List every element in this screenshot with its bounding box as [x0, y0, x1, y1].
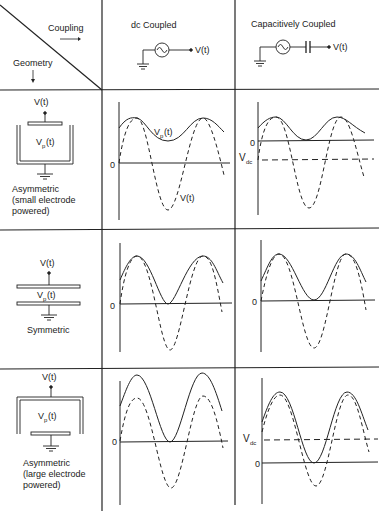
arrow-right-icon	[78, 37, 81, 41]
geometry-input-label: V(t)	[40, 258, 55, 268]
plot-row1-dc: 0 V p (t) V(t)	[110, 102, 230, 220]
capacitive-coupled-label: Capacitively Coupled	[251, 19, 336, 29]
vp-curve	[120, 256, 223, 304]
zero-label: 0	[110, 160, 115, 170]
plot-row2-dc: 0	[110, 243, 232, 352]
geometry-input-label: V(t)	[34, 97, 49, 107]
geometry-caption-line: Asymmetric	[12, 184, 59, 194]
capacitive-coupled-header: Capacitively Coupled V(t)	[251, 19, 348, 66]
geometry-input-label: V(t)	[42, 372, 57, 382]
dc-output-label: V(t)	[195, 45, 210, 55]
plot-row3-capacitive: 0 V dc	[243, 378, 378, 504]
arrow-down-icon	[31, 79, 35, 83]
geometry-asymmetric-large: V(t) V p (t) Asymmetric (large electrode…	[17, 372, 86, 490]
corner-header: Coupling Geometry	[13, 23, 84, 83]
cap-output-label: V(t)	[333, 42, 348, 52]
vp-suffix: (t)	[164, 127, 173, 137]
zero-label: 0	[255, 459, 260, 469]
zero-line	[120, 303, 232, 304]
v-curve	[258, 117, 364, 208]
plasma-potential-suffix: (t)	[46, 137, 55, 147]
zero-line	[261, 300, 375, 301]
geometry-caption-line: Symmetric	[27, 325, 70, 335]
plot-row1-capacitive: 0 V dc	[239, 102, 374, 215]
capacitive-source-circuit-icon	[254, 40, 330, 66]
vp-curve	[120, 373, 222, 442]
geometry-caption-line: (small electrode	[12, 195, 76, 205]
geometry-caption-line: powered)	[23, 480, 61, 490]
dc-coupled-label: dc Coupled	[131, 20, 177, 30]
zero-line	[120, 441, 228, 442]
geometry-caption-line: powered)	[12, 206, 50, 216]
zero-label: 0	[252, 297, 257, 307]
geometry-asymmetric-small: V(t) V p (t) Asymmetric (small electrode…	[12, 97, 76, 216]
coupling-label: Coupling	[48, 23, 84, 33]
vdc-line	[264, 439, 378, 440]
plot-row3-dc: 0	[112, 373, 228, 505]
vdc-label: V	[243, 433, 250, 444]
v-curve	[262, 395, 369, 486]
geometry-caption-line: Asymmetric	[23, 458, 70, 468]
vp-curve	[261, 254, 366, 300]
zero-label: 0	[250, 138, 255, 148]
vdc-line	[262, 159, 374, 160]
vp-curve	[262, 392, 368, 463]
plasma-potential-suffix: (t)	[47, 290, 56, 300]
table-grid	[0, 0, 379, 511]
zero-label: 0	[112, 437, 117, 447]
vdc-sub: dc	[250, 440, 256, 446]
geometry-label: Geometry	[13, 58, 53, 68]
dc-coupled-header: dc Coupled V(t)	[131, 20, 210, 69]
dc-source-circuit-icon	[137, 43, 192, 69]
zero-label: 0	[110, 301, 115, 311]
plot-row2-capacitive: 0	[252, 240, 375, 352]
vdc-sub: dc	[246, 159, 252, 165]
coupling-geometry-diagram: Coupling Geometry dc Coupled V(t) Capaci…	[0, 0, 379, 511]
zero-line	[262, 462, 378, 463]
v-label: V(t)	[180, 193, 195, 203]
vp-curve	[258, 117, 365, 140]
geometry-caption-line: (large electrode	[23, 469, 86, 479]
plasma-potential-suffix: (t)	[48, 411, 57, 421]
geometry-symmetric: V(t) V p (t) Symmetric	[17, 258, 80, 335]
zero-line	[258, 140, 374, 141]
vdc-label: V	[239, 152, 246, 163]
